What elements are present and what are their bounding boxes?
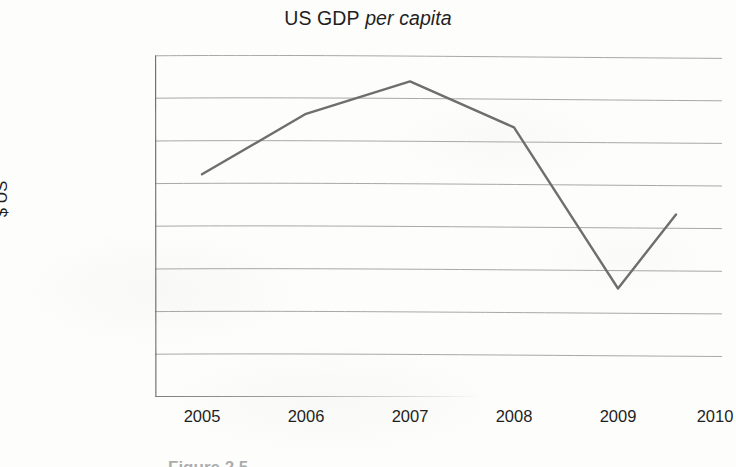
x-tick-label-2005: 2005	[162, 407, 242, 426]
gridline-42500	[155, 183, 722, 186]
x-tick-label-2006: 2006	[266, 407, 346, 426]
chart-canvas	[155, 55, 722, 397]
figure-caption-remnant: Figure 2.5	[168, 458, 498, 467]
gridlines	[155, 55, 722, 397]
chart-title-italic: per capita	[365, 7, 452, 29]
x-tick-label-2009: 2009	[578, 407, 658, 426]
y-axis-title: $ US	[0, 156, 11, 242]
plot-area: 44,000.00 43,500.00 43,000.00 42,500.00 …	[155, 55, 722, 397]
gridline-41500	[155, 269, 722, 272]
x-tick-label-2008: 2008	[474, 407, 554, 426]
chart-title: US GDP per capita	[0, 7, 736, 30]
chart-title-regular: US GDP	[284, 7, 359, 29]
gridline-40500	[155, 354, 722, 357]
figure-container: US GDP per capita $ US	[0, 0, 736, 467]
gridline-41000	[155, 311, 722, 314]
gridline-42000	[155, 226, 722, 229]
x-tick-label-2007: 2007	[370, 407, 450, 426]
gridline-43500	[155, 98, 722, 101]
x-tick-label-2010: 2010	[675, 407, 736, 426]
gridline-44000	[155, 55, 722, 58]
gridline-43000	[155, 141, 722, 144]
